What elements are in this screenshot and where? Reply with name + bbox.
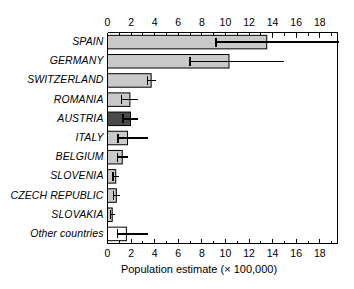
bar-group	[108, 189, 121, 203]
y-axis-category-label: BELGIUM	[56, 151, 104, 162]
bar-group	[108, 55, 285, 69]
y-axis-category-label: ROMANIA	[54, 94, 104, 105]
bar-group	[108, 74, 156, 88]
y-axis-category-label: ITALY	[76, 132, 104, 143]
y-axis-category-label: GERMANY	[50, 55, 104, 66]
bar-group	[108, 131, 148, 145]
bar	[108, 74, 152, 88]
bar-group	[108, 208, 115, 222]
y-axis-category-label: SLOVAKIA	[51, 209, 103, 220]
bar-group	[108, 150, 129, 164]
y-axis-category-label: AUSTRIA	[57, 113, 103, 124]
x-axis-title: Population estimate (× 100,000)	[0, 264, 354, 275]
y-axis-category-label: CZECH REPUBLIC	[11, 190, 104, 201]
bar-group	[108, 35, 339, 49]
chart-plot-area	[0, 0, 354, 289]
bar-group	[108, 93, 139, 107]
x-axis-tick-label-top: 18	[300, 17, 340, 28]
y-axis-category-label: SWITZERLAND	[27, 74, 103, 85]
y-axis-category-label: SLOVENIA	[50, 170, 103, 181]
bar-chart-figure: SPAINGERMANYSWITZERLANDROMANIAAUSTRIAITA…	[0, 0, 354, 289]
bar-group	[108, 170, 120, 184]
bar-group	[108, 112, 139, 126]
y-axis-category-label: Other countries	[30, 228, 103, 239]
y-axis-category-label: SPAIN	[72, 36, 103, 47]
x-axis-tick-label-bottom: 18	[300, 248, 340, 259]
bar-group	[108, 227, 148, 241]
